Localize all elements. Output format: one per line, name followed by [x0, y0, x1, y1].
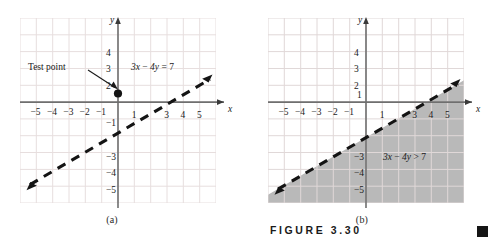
svg-text:−1: −1	[344, 107, 354, 117]
svg-text:−1: −1	[96, 107, 106, 117]
svg-text:−4: −4	[47, 107, 57, 117]
svg-text:2: 2	[106, 81, 111, 91]
end-of-figure-square	[477, 226, 488, 237]
axis-label-x-b: x	[475, 104, 481, 114]
svg-text:3: 3	[412, 110, 417, 120]
svg-text:1: 1	[357, 90, 362, 100]
svg-text:−3: −3	[311, 107, 321, 117]
svg-text:−4: −4	[106, 168, 116, 178]
svg-text:−4: −4	[295, 107, 305, 117]
equation-label-a: 3x − 4y = 7	[130, 62, 174, 72]
plot-a: Test point 3x − 4y = 7 y x −5 −4 −3 −2 −…	[2, 8, 242, 213]
svg-text:−2: −2	[80, 107, 90, 117]
svg-text:−5: −5	[31, 107, 41, 117]
svg-text:4: 4	[354, 48, 359, 58]
svg-text:−5: −5	[279, 107, 289, 117]
svg-text:−1: −1	[106, 118, 116, 128]
svg-text:1: 1	[380, 110, 385, 120]
svg-text:3: 3	[106, 64, 111, 74]
svg-text:3: 3	[164, 110, 169, 120]
panel-a: Test point 3x − 4y = 7 y x −5 −4 −3 −2 −…	[2, 8, 242, 240]
svg-text:3: 3	[354, 64, 359, 74]
svg-text:4: 4	[429, 110, 434, 120]
svg-text:−4: −4	[354, 168, 364, 178]
svg-text:−2: −2	[328, 107, 338, 117]
svg-text:5: 5	[197, 110, 202, 120]
figure-3-30: Test point 3x − 4y = 7 y x −5 −4 −3 −2 −…	[0, 0, 495, 245]
svg-text:5: 5	[445, 110, 450, 120]
panel-a-caption: (a)	[0, 214, 232, 225]
axis-label-y-a: y	[109, 15, 115, 25]
panel-b: 3x − 4y > 7 y x −5 −4 −3 −2 −1 1 3 4 5 4…	[250, 8, 490, 240]
svg-text:−5: −5	[106, 185, 116, 195]
svg-text:4: 4	[106, 48, 111, 58]
svg-text:1: 1	[132, 110, 137, 120]
svg-text:−5: −5	[354, 185, 364, 195]
inequality-label-b: 3x − 4y > 7	[382, 152, 426, 162]
svg-text:4: 4	[181, 110, 186, 120]
axis-label-x-a: x	[227, 104, 233, 114]
test-point-label: Test point	[28, 62, 66, 72]
figure-label: FIGURE 3.30	[270, 224, 362, 236]
svg-text:−3: −3	[106, 152, 116, 162]
axis-label-y-b: y	[357, 15, 363, 25]
svg-text:−3: −3	[63, 107, 73, 117]
plot-b: 3x − 4y > 7 y x −5 −4 −3 −2 −1 1 3 4 5 4…	[250, 8, 490, 213]
svg-text:−3: −3	[354, 152, 364, 162]
